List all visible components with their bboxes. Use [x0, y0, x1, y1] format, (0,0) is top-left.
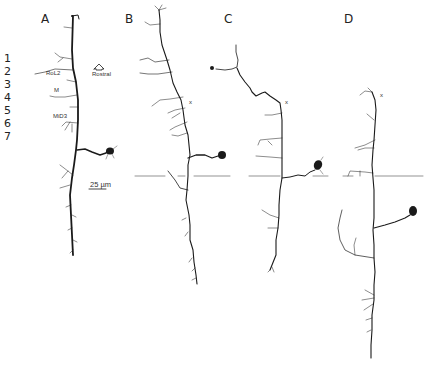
rostral-arrow-icon — [94, 64, 104, 70]
soma-a — [106, 148, 114, 155]
neuron-a — [35, 15, 117, 255]
soma-c — [312, 159, 323, 171]
neuron-figure: A B C D 1 2 3 4 5 6 7 RoL2 M MiD3 Rostra… — [0, 0, 430, 370]
soma-b — [218, 151, 226, 159]
neuron-d — [338, 88, 417, 358]
soma-d — [409, 206, 417, 216]
marker-star-c — [210, 66, 214, 70]
neuron-b — [140, 5, 226, 284]
neuron-c — [210, 45, 324, 272]
neuron-drawings — [0, 0, 430, 370]
